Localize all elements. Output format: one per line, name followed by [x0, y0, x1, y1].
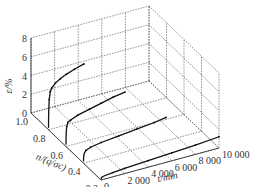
data-point	[218, 136, 220, 138]
data-point	[90, 146, 92, 148]
data-point	[124, 91, 126, 93]
data-point	[153, 122, 155, 124]
series-curve-n=0.4	[84, 117, 167, 161]
x-tick-label: 10 000	[222, 149, 250, 160]
data-point	[65, 73, 67, 75]
data-point	[89, 108, 91, 110]
gridline-back-eps	[31, 44, 149, 76]
data-point	[83, 63, 85, 65]
z-tick-label: 4	[22, 71, 27, 82]
data-point	[112, 96, 114, 98]
data-point	[101, 102, 103, 104]
data-point	[67, 122, 69, 124]
data-point	[66, 126, 68, 128]
data-point	[165, 117, 167, 119]
y-tick-label: 0.4	[68, 166, 81, 177]
data-point	[100, 142, 102, 144]
data-point	[124, 168, 126, 170]
data-point	[59, 78, 61, 80]
data-point	[147, 160, 149, 162]
gridline-back-eps	[31, 62, 149, 94]
data-point	[195, 144, 197, 146]
gridline-side-eps	[149, 62, 219, 129]
data-point	[74, 68, 76, 70]
data-point	[136, 128, 138, 130]
gridline-floor-n	[66, 115, 184, 147]
z-tick-label: 2	[22, 89, 27, 100]
data-point	[48, 99, 50, 101]
data-point	[77, 114, 79, 116]
data-point	[85, 150, 87, 152]
y-tick-label: 0.8	[33, 133, 46, 144]
z-axis-label: ε/%	[3, 78, 14, 93]
creep-3d-chart: 024681.00.80.60.40.202 0004 0006 0008 00…	[0, 0, 265, 187]
x-tick-label: 6 000	[175, 162, 198, 173]
data-point	[118, 135, 120, 137]
data-point	[171, 152, 173, 154]
data-point	[49, 91, 51, 93]
y-tick-label: 0.2	[86, 183, 99, 187]
z-tick-label: 6	[22, 52, 27, 63]
y-tick-label: 1.0	[16, 116, 29, 127]
gridline-floor-n	[84, 131, 202, 163]
data-point	[51, 87, 53, 89]
z-tick-label: 8	[22, 33, 27, 44]
data-point	[112, 172, 114, 174]
gridline-back-eps	[31, 25, 149, 57]
x-tick-label: 2 000	[128, 175, 151, 186]
gridline-back-eps	[31, 6, 149, 38]
data-point	[55, 82, 57, 84]
x-tick-label: 8 000	[198, 155, 221, 166]
x-tick-label: 0	[104, 181, 109, 187]
data-point	[70, 119, 72, 121]
